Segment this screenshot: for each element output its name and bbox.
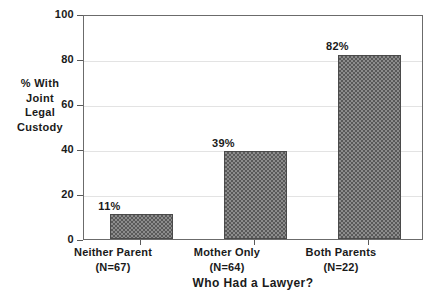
x-category-label-neither-parent: Neither Parent (N=67) xyxy=(56,245,170,275)
y-axis-title-line-3: Legal xyxy=(2,105,78,120)
x-axis-title: Who Had a Lawyer? xyxy=(83,276,423,290)
y-tick-label-100: 100 xyxy=(44,9,74,20)
y-tick-mark-0 xyxy=(77,240,83,241)
y-axis-title: % With Joint Legal Custody xyxy=(2,76,78,134)
x-category-name-both-parents: Both Parents xyxy=(284,245,398,260)
y-tick-label-20: 20 xyxy=(44,189,74,200)
bar-value-label-both-parents: 82% xyxy=(306,40,369,52)
bar-value-label-mother-only: 39% xyxy=(192,137,255,149)
x-category-n-neither-parent: (N=67) xyxy=(56,260,170,275)
x-category-name-mother-only: Mother Only xyxy=(170,245,284,260)
y-tick-label-80: 80 xyxy=(44,54,74,65)
x-category-name-neither-parent: Neither Parent xyxy=(56,245,170,260)
bar-neither-parent xyxy=(110,214,173,239)
bar-mother-only xyxy=(224,151,287,239)
y-tick-mark-100 xyxy=(77,15,83,16)
x-category-label-mother-only: Mother Only (N=64) xyxy=(170,245,284,275)
x-category-n-both-parents: (N=22) xyxy=(284,260,398,275)
y-axis-title-line-4: Custody xyxy=(2,120,78,135)
y-tick-label-0: 0 xyxy=(44,234,74,245)
y-axis-title-line-1: % With xyxy=(2,76,78,91)
y-tick-label-40: 40 xyxy=(44,144,74,155)
y-tick-mark-80 xyxy=(77,60,83,61)
y-tick-mark-40 xyxy=(77,150,83,151)
x-category-n-mother-only: (N=64) xyxy=(170,260,284,275)
bar-both-parents xyxy=(338,55,401,240)
y-tick-mark-20 xyxy=(77,195,83,196)
y-axis-title-line-2: Joint xyxy=(2,91,78,106)
x-category-label-both-parents: Both Parents (N=22) xyxy=(284,245,398,275)
bar-value-label-neither-parent: 11% xyxy=(78,200,141,212)
bar-chart: 11% 39% 82% 100 80 60 40 20 0 % With Joi… xyxy=(0,0,435,298)
